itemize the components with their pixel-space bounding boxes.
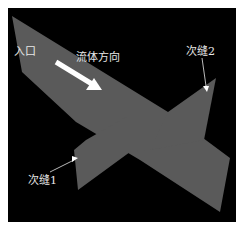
label-inlet: 入口 bbox=[14, 46, 36, 57]
label-secondary-fracture-1: 次缝1 bbox=[28, 175, 57, 186]
pointer-secondary-fracture-1 bbox=[50, 156, 78, 172]
label-flow-direction: 流体方向 bbox=[76, 52, 120, 63]
fracture-diagram bbox=[0, 0, 242, 234]
pointer-secondary-fracture-2 bbox=[202, 58, 209, 92]
label-secondary-fracture-2: 次缝2 bbox=[186, 46, 215, 57]
